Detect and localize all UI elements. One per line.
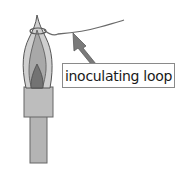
pointer-arrow (73, 33, 96, 64)
burner-collar (24, 87, 53, 117)
inoculating-loop-wire (44, 20, 124, 35)
label-box: inoculating loop (62, 63, 175, 88)
burner-stem (30, 116, 47, 163)
label-text: inoculating loop (65, 68, 172, 84)
